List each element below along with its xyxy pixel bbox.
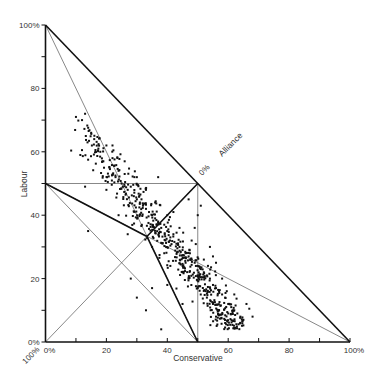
data-point [206,275,208,277]
data-point [84,186,86,188]
x-tick-label: 100% [344,346,364,355]
data-point [195,275,197,277]
data-point [219,318,221,320]
data-point [205,290,207,292]
data-point [88,140,90,142]
data-point [143,191,145,193]
data-point [185,262,187,264]
data-point [122,196,124,198]
data-point [189,266,191,268]
data-point [126,198,128,200]
data-point [167,267,169,269]
data-point [212,312,214,314]
data-point [147,222,149,224]
data-point [152,211,154,213]
y-tick-label: 60 [31,148,40,157]
data-point [203,276,205,278]
data-point [93,144,95,146]
data-point [109,159,111,161]
data-point [159,204,161,206]
data-point [109,168,111,170]
data-point [194,259,196,261]
data-point [164,233,166,235]
data-point [127,173,129,175]
data-point [116,156,118,158]
data-point [198,276,200,278]
data-point [133,195,135,197]
data-point [136,297,138,299]
data-point [230,306,232,308]
data-point [169,265,171,267]
data-point [215,316,217,318]
data-point [136,198,138,200]
data-point [131,224,133,226]
data-point [85,135,87,137]
data-point [184,251,186,253]
data-point [202,287,204,289]
data-point [125,194,127,196]
data-point [165,242,167,244]
data-point [124,160,126,162]
data-point [118,175,120,177]
data-point [102,177,104,179]
data-point [199,290,201,292]
data-point [135,196,137,198]
data-point [234,314,236,316]
data-point [169,216,171,218]
data-point [93,154,95,156]
data-point [188,275,190,277]
data-point [218,301,220,303]
data-point [233,293,235,295]
data-point [191,264,193,266]
data-point [86,125,88,127]
data-point [209,278,211,280]
data-point [227,319,229,321]
data-point [138,206,140,208]
data-point [182,240,184,242]
data-point [159,254,161,256]
data-point [135,200,137,202]
data-point [172,236,174,238]
data-point [168,219,170,221]
data-point [140,212,142,214]
data-point [150,214,152,216]
data-point [209,307,211,309]
data-point [111,144,113,146]
alliance-zero-label: 0% [197,163,212,178]
data-point [111,157,113,159]
data-point [172,260,174,262]
data-point [125,186,127,188]
data-point [217,317,219,319]
data-point [203,259,205,261]
data-point [172,233,174,235]
data-point [145,202,147,204]
data-point [231,319,233,321]
data-point [171,243,173,245]
data-point [98,145,100,147]
data-point [157,176,159,178]
data-point [203,279,205,281]
data-point [190,275,192,277]
data-point [155,219,157,221]
data-point [179,254,181,256]
data-point [166,284,168,286]
data-point [198,273,200,275]
data-point [182,254,184,256]
data-point [99,137,101,139]
data-point [217,293,219,295]
data-point [99,151,101,153]
data-point [238,328,240,330]
data-point [197,256,199,258]
data-point [217,310,219,312]
data-point [229,303,231,305]
data-point [101,157,103,159]
data-point [179,241,181,243]
data-point [105,189,107,191]
data-point [133,176,135,178]
data-point [214,270,216,272]
data-point [142,213,144,215]
data-point [252,316,254,318]
data-point [200,205,202,207]
data-point [81,149,83,151]
x-tick-label: 20 [102,346,111,355]
